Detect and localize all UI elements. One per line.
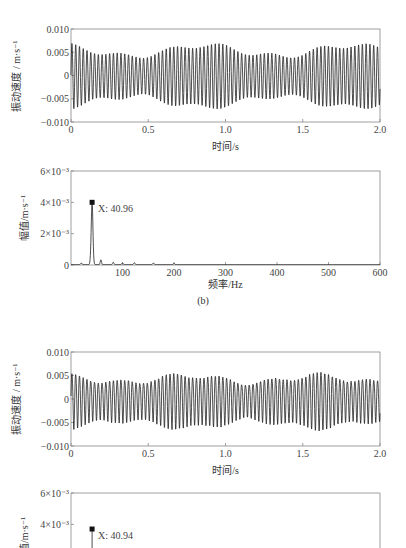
wave1-xtick-label: 0 bbox=[69, 124, 74, 135]
wave2-xtick-label: 0.5 bbox=[142, 448, 155, 459]
wave1-xtick-label: 2.0 bbox=[374, 124, 387, 135]
spec1-xtick-label: 600 bbox=[373, 267, 388, 278]
wave2-xtick-label: 1.0 bbox=[219, 448, 232, 459]
wave1-ytick-label: −0.005 bbox=[41, 93, 69, 104]
spec1-ytick-label: 2×10⁻³ bbox=[40, 228, 69, 239]
spec2-ylabel: 幅值/m·s⁻¹ bbox=[18, 517, 30, 548]
wave2-xtick-label: 2.0 bbox=[374, 448, 387, 459]
spec1-ylabel: 幅值/m·s⁻¹ bbox=[18, 195, 30, 241]
wave1-ytick-label: −0.010 bbox=[41, 117, 69, 128]
wave1-ytick-label: 0.010 bbox=[47, 24, 70, 35]
spec1-ytick-label: 4×10⁻³ bbox=[40, 197, 69, 208]
figure-caption-b: (b) bbox=[0, 295, 406, 306]
wave1-xlabel: 时间/s bbox=[212, 140, 239, 152]
spec1-frame bbox=[71, 171, 380, 265]
wave1-xtick-label: 1.0 bbox=[219, 124, 232, 135]
spec2-datatip-marker bbox=[90, 527, 95, 532]
spec1-datatip-label: X: 40.96 bbox=[98, 203, 133, 214]
wave1-xtick-label: 1.5 bbox=[297, 124, 310, 135]
spec2-ytick-label: 6×10⁻³ bbox=[40, 488, 69, 499]
spec1-xtick-label: 400 bbox=[270, 267, 285, 278]
spec1-xtick-label: 100 bbox=[115, 267, 130, 278]
spec1-xlabel: 频率/Hz bbox=[208, 278, 243, 290]
wave1-xtick-label: 0.5 bbox=[142, 124, 155, 135]
wave2-ytick-label: 0.005 bbox=[47, 370, 70, 381]
wave2-xtick-label: 0 bbox=[69, 448, 74, 459]
wave2-ytick-label: −0.005 bbox=[41, 417, 69, 428]
wave2-ytick-label: 0.010 bbox=[47, 347, 70, 358]
spec1-ytick-label: 0 bbox=[64, 260, 69, 271]
spec2-datatip-label: X: 40.94 bbox=[98, 530, 133, 541]
wave2-ytick-label: 0 bbox=[64, 394, 69, 405]
wave1-ylabel: 振动速度 / m·s⁻¹ bbox=[10, 40, 22, 111]
spec1-xtick-label: 200 bbox=[167, 267, 182, 278]
wave2-ylabel: 振动速度 / m·s⁻¹ bbox=[10, 363, 22, 434]
wave2-signal-line bbox=[71, 372, 380, 431]
spec1-xtick-label: 300 bbox=[218, 267, 233, 278]
spec1-datatip-marker bbox=[90, 200, 95, 205]
wave1-ytick-label: 0 bbox=[64, 70, 69, 81]
wave2-xlabel: 时间/s bbox=[212, 464, 239, 476]
wave2-ytick-label: −0.010 bbox=[41, 441, 69, 452]
wave1-ytick-label: 0.005 bbox=[47, 47, 70, 58]
spec1-ytick-label: 6×10⁻³ bbox=[40, 166, 69, 177]
spec1-xtick-label: 500 bbox=[321, 267, 336, 278]
wave1-signal-line bbox=[71, 43, 380, 108]
wave2-xtick-label: 1.5 bbox=[297, 448, 310, 459]
figure-canvas: 0.0100.0050−0.005−0.01000.51.01.52.0时间/s… bbox=[0, 0, 406, 548]
spec2-ytick-label: 4×10⁻³ bbox=[40, 519, 69, 530]
